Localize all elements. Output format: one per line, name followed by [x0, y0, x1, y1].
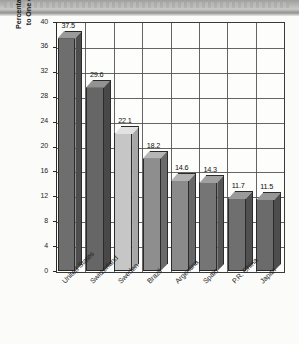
bar-side-edge	[223, 175, 224, 264]
bar-side-edge	[81, 31, 82, 264]
bar-value-label: 18.2	[147, 141, 160, 150]
bar-value-label: 22.1	[118, 116, 131, 125]
bar-side-edge	[280, 192, 281, 264]
bar	[199, 175, 224, 271]
y-axis-spine	[56, 22, 57, 271]
bar	[143, 151, 168, 271]
bar	[256, 192, 281, 271]
bar-chart: Percentage of Adults Belonging to One or…	[0, 0, 299, 344]
bar-top-edge	[150, 151, 168, 152]
bar-top-edge	[263, 192, 281, 193]
bar-front-face	[228, 198, 246, 271]
bar-front-face	[58, 38, 76, 271]
bar-front-face	[86, 87, 104, 271]
y-tick-label: 4	[32, 242, 48, 249]
bar-front-face	[114, 133, 132, 271]
bar-front-face	[143, 158, 161, 271]
bar-top-edge	[93, 80, 111, 81]
y-tick-label: 16	[32, 167, 48, 174]
bar-top-edge	[235, 191, 253, 192]
bar	[86, 80, 111, 271]
bar-top-edge	[206, 175, 224, 176]
bar-top-edge	[121, 126, 139, 127]
bar-side-edge	[110, 80, 111, 264]
y-tick-label: 40	[32, 18, 48, 25]
bar-value-label: 29.6	[90, 70, 103, 79]
y-tick-label: 24	[32, 117, 48, 124]
y-tick-label: 12	[32, 192, 48, 199]
bar-side-edge	[195, 173, 196, 264]
bar	[114, 126, 139, 271]
y-axis-title: Percentage of Adults Belonging to One or…	[14, 0, 33, 64]
y-tick-label: 0	[32, 267, 48, 274]
bar-side-edge	[252, 191, 253, 264]
bar	[58, 31, 83, 271]
bar-value-label: 37.5	[62, 21, 75, 30]
y-tick-label: 28	[32, 92, 48, 99]
bar	[171, 173, 196, 271]
y-tick-label: 20	[32, 142, 48, 149]
bar-side-edge	[167, 151, 168, 264]
y-axis-title-line2: to One or More Organizations	[24, 0, 34, 64]
bar-top-edge	[65, 31, 83, 32]
bar-value-label: 11.7	[232, 181, 245, 190]
y-axis-title-line1: Percentage of Adults Belonging	[14, 0, 24, 64]
bar-front-face	[171, 180, 189, 271]
bar-front-face	[199, 182, 217, 271]
bar-value-label: 11.5	[260, 182, 273, 191]
bar-top-edge	[178, 173, 196, 174]
y-tick-label: 32	[32, 67, 48, 74]
y-tick-label: 36	[32, 42, 48, 49]
bar-side-edge	[138, 126, 139, 264]
bar-value-label: 14.6	[175, 163, 188, 172]
y-tick-label: 8	[32, 217, 48, 224]
bar-value-label: 14.3	[203, 165, 216, 174]
